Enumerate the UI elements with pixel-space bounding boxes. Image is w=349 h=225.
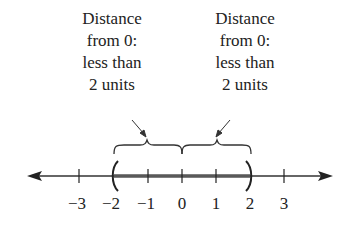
tick-label: 2 [246, 194, 255, 214]
tick-label: 0 [178, 194, 187, 214]
tick-label: −2 [102, 194, 120, 214]
left-brace [114, 140, 182, 154]
tick-label: 3 [280, 194, 289, 214]
tick-label: 1 [212, 194, 221, 214]
left-pointer-arrow [132, 120, 146, 137]
right-brace [182, 140, 251, 154]
right-pointer-arrow [216, 120, 230, 137]
tick-label: −3 [68, 194, 86, 214]
tick-label: −1 [137, 194, 155, 214]
number-line-diagram [0, 0, 349, 225]
